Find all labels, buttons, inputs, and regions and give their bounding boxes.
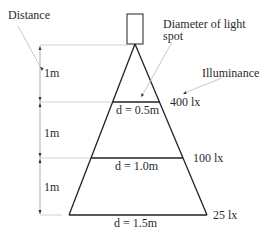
arrow-up-icon [39, 159, 42, 163]
illuminance-value-3: 25 lx [213, 209, 237, 222]
leader-arrow-icon [183, 91, 187, 94]
illuminance-value-2: 100 lx [193, 152, 223, 165]
leader-arrow-icon [40, 67, 44, 71]
distance-segment-1: 1m [44, 67, 59, 80]
arrow-up-icon [39, 46, 42, 50]
distance-leader [18, 26, 42, 70]
cone-right-edge [135, 44, 207, 215]
arrow-down-icon [39, 210, 42, 214]
diameter-leader [142, 42, 172, 96]
diameter-value-2: d = 1.0m [115, 160, 158, 173]
illuminance-value-1: 400 lx [170, 96, 200, 109]
distance-label: Distance [8, 9, 50, 22]
arrow-up-icon [39, 103, 42, 107]
arrow-down-icon [39, 153, 42, 157]
diameter-label-line2: spot [163, 30, 183, 43]
distance-segment-3: 1m [44, 181, 59, 194]
diameter-value-1: d = 0.5m [116, 104, 159, 117]
cone-left-edge [69, 44, 135, 215]
distance-segment-2: 1m [44, 127, 59, 140]
illuminance-leader [184, 78, 222, 93]
illuminance-label: Illuminance [202, 67, 259, 80]
lamp-icon [127, 14, 143, 44]
arrow-down-icon [39, 97, 42, 101]
diameter-value-3: d = 1.5m [114, 217, 157, 230]
